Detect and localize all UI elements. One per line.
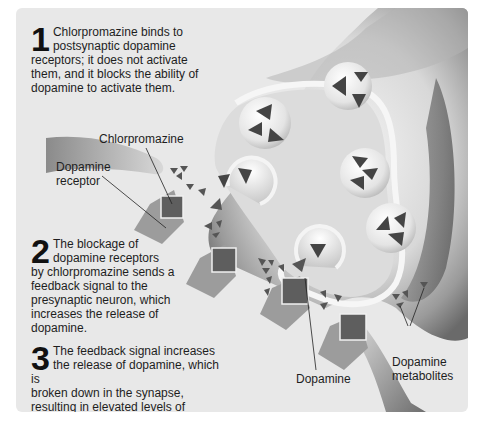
leader-chlorpromazine — [146, 148, 172, 204]
step-1-number: 1 — [31, 26, 50, 53]
step-2-text: 2 The blockage of dopamine receptors by … — [31, 237, 181, 335]
receptor-chlorpromazine — [260, 276, 310, 330]
vesicle — [340, 148, 390, 198]
receptor-chlorpromazine — [186, 244, 236, 298]
vesicle — [324, 62, 372, 110]
label-dopamine-metabolites: Dopamine metabolites — [392, 355, 453, 383]
step-2-number: 2 — [31, 238, 50, 265]
step-3-number: 3 — [31, 345, 50, 372]
vesicle — [239, 97, 291, 149]
diagram-panel: 1 Chlorpromazine binds to postsynaptic d… — [16, 8, 468, 412]
label-chlorpromazine: Chlorpromazine — [99, 132, 184, 146]
receptor-chlorpromazine — [318, 314, 368, 370]
label-dopamine-receptor: Dopamine receptor — [56, 160, 111, 188]
label-dopamine: Dopamine — [296, 372, 351, 386]
receptor-chlorpromazine — [134, 190, 184, 244]
vesicle — [366, 203, 416, 253]
step-3-text: 3 The feedback signal increases the rele… — [31, 344, 231, 412]
step-1-text: 1 Chlorpromazine binds to postsynaptic d… — [31, 25, 221, 95]
